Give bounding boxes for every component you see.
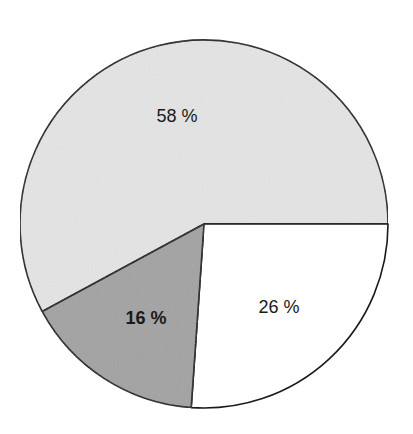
slice-label-26: 26 % xyxy=(258,297,299,317)
pie-chart: 58 % 26 % 16 % xyxy=(0,0,413,434)
slice-label-58: 58 % xyxy=(156,106,197,126)
slice-label-16: 16 % xyxy=(125,308,166,328)
